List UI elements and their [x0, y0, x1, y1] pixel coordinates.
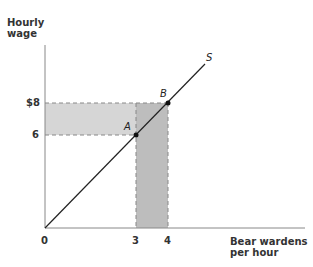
y-axis-label: Hourly wage — [7, 17, 44, 39]
x-tick-3: 3 — [132, 235, 139, 246]
point-a-marker — [134, 133, 139, 138]
supply-curve — [45, 64, 205, 228]
supply-chart — [0, 0, 313, 267]
x-tick-0: 0 — [41, 235, 48, 246]
curve-label-s: S — [206, 52, 212, 63]
y-axis-label-line2: wage — [7, 28, 44, 39]
y-tick-6: 6 — [32, 129, 39, 140]
y-axis-label-line1: Hourly — [7, 17, 44, 28]
point-b-marker — [166, 101, 171, 106]
x-axis-label: Bear wardens per hour — [230, 236, 308, 258]
y-tick-8: $8 — [26, 97, 40, 108]
point-b-label: B — [160, 88, 167, 99]
workers-rectangle — [136, 103, 168, 228]
point-a-label: A — [124, 121, 131, 132]
x-axis-label-line2: per hour — [230, 247, 308, 258]
x-axis-label-line1: Bear wardens — [230, 236, 308, 247]
x-tick-4: 4 — [164, 235, 171, 246]
